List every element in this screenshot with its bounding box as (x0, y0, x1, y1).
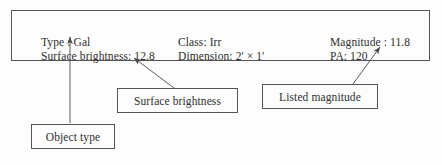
callout-listed-magnitude: Listed magnitude (262, 84, 378, 109)
arrow-surface-brightness (134, 58, 174, 88)
object-info-panel: Type : Gal Surface brightness: 12.8 Clas… (11, 10, 430, 61)
annotated-object-info-figure: Type : Gal Surface brightness: 12.8 Clas… (0, 0, 442, 165)
field-pa: PA: 120 (330, 50, 368, 62)
callout-object-type-label: Object type (46, 131, 100, 143)
callout-surface-brightness: Surface brightness (117, 88, 238, 113)
field-dimension: Dimension: 2' × 1' (178, 50, 264, 62)
field-surface-brightness: Surface brightness: 12.8 (41, 50, 155, 62)
field-magnitude: Magnitude : 11.8 (330, 36, 410, 48)
callout-surface-brightness-label: Surface brightness (134, 95, 221, 107)
callout-object-type: Object type (31, 124, 115, 149)
callout-listed-magnitude-label: Listed magnitude (279, 91, 361, 103)
field-type: Type : Gal (41, 36, 90, 48)
field-class: Class: Irr (178, 36, 221, 48)
